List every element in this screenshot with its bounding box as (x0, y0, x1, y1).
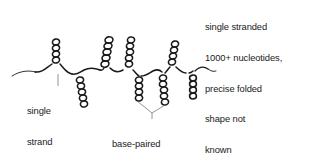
strand-backbone (12, 64, 216, 76)
backbone-segment-e (110, 68, 123, 72)
side-loop-1-up (52, 38, 61, 64)
backbone-segment-h (165, 67, 170, 73)
backbone-segment-g (141, 70, 162, 76)
backbone-tail-left (12, 71, 36, 76)
base-paired-line-1: base-paired (112, 139, 195, 149)
side-loop-5-down (135, 76, 143, 101)
side-loop-3-up (100, 36, 113, 68)
leader-lines (58, 74, 165, 119)
single-stranded-note: single stranded 1000+ nucleotides, preci… (205, 2, 282, 164)
note-line-4: shape not (205, 114, 282, 124)
side-loop-8-down (189, 75, 197, 100)
backbone-segment-f (133, 70, 139, 76)
single-strand-line-1: single (27, 106, 52, 116)
backbone-segment-j (189, 71, 193, 73)
figure-canvas: single stranded 1000+ nucleotides, preci… (0, 0, 317, 164)
backbone-segment-c (72, 68, 100, 74)
leader-base-paired-left (137, 101, 152, 113)
base-paired-side-loops-caption: base-paired side loops (twisted to form … (112, 119, 195, 164)
leader-base-paired-right (152, 105, 165, 113)
side-loop-2-down (76, 76, 88, 108)
side-loop-6-down (159, 74, 169, 105)
note-line-3: precise folded (205, 84, 282, 94)
backbone-segment-i (176, 67, 186, 73)
single-strand-line-2: strand (27, 137, 52, 147)
note-line-1: single stranded (205, 22, 282, 32)
side-loop-4-up (125, 36, 135, 67)
note-line-5: known (205, 145, 282, 155)
side-loop-7-up (168, 40, 180, 66)
note-line-2: 1000+ nucleotides, (205, 53, 282, 63)
side-loops (52, 36, 197, 108)
backbone-segment-d (100, 68, 104, 70)
backbone-segment-a (35, 64, 52, 72)
single-strand-label: single strand (27, 86, 52, 164)
backbone-segment-b (60, 64, 72, 74)
